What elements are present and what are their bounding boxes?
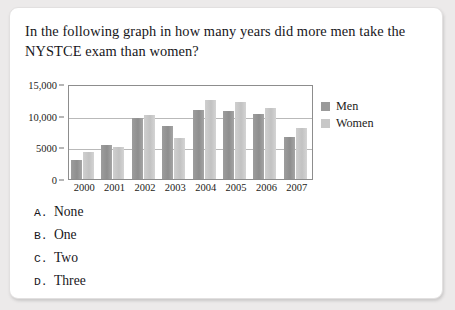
legend-label: Women bbox=[336, 116, 374, 131]
bar-women-2003 bbox=[174, 138, 185, 179]
option-label: Three bbox=[54, 273, 86, 289]
bar-men-2004 bbox=[193, 110, 204, 179]
option-three[interactable]: D.Three bbox=[34, 273, 334, 296]
option-two[interactable]: C.Two bbox=[34, 250, 334, 273]
y-axis-tick-mark bbox=[59, 148, 64, 149]
bar-group bbox=[160, 86, 190, 179]
bar-group bbox=[191, 86, 221, 179]
bar-group bbox=[69, 86, 99, 179]
bar-men-2007 bbox=[284, 137, 295, 179]
y-axis-tick-label: 15,000 bbox=[28, 80, 57, 91]
bar-group bbox=[282, 86, 312, 179]
x-axis: 20002001200220032004200520062007 bbox=[69, 182, 312, 196]
option-key: D. bbox=[34, 276, 54, 288]
option-key: A. bbox=[34, 207, 54, 219]
bar-women-2002 bbox=[144, 115, 155, 179]
bar-men-2001 bbox=[101, 145, 112, 179]
answer-options: A.NoneB.OneC.TwoD.Three bbox=[34, 204, 334, 296]
x-axis-tick-label: 2007 bbox=[282, 182, 312, 193]
bar-women-2000 bbox=[83, 152, 94, 179]
bar-men-2002 bbox=[132, 118, 143, 179]
y-axis: 0500010,00015,000 bbox=[10, 85, 64, 180]
y-axis-tick-mark bbox=[59, 85, 64, 86]
bar-men-2006 bbox=[253, 114, 264, 179]
option-label: One bbox=[54, 227, 77, 243]
option-key: B. bbox=[34, 230, 54, 242]
option-none[interactable]: A.None bbox=[34, 204, 334, 227]
legend-swatch-icon bbox=[321, 119, 330, 128]
bar-women-2007 bbox=[296, 128, 307, 179]
y-axis-tick-mark bbox=[59, 116, 64, 117]
x-axis-tick-label: 2003 bbox=[160, 182, 190, 193]
bar-group bbox=[251, 86, 281, 179]
y-axis-tick-label: 0 bbox=[52, 175, 57, 186]
bar-women-2005 bbox=[235, 102, 246, 180]
x-axis-tick-label: 2005 bbox=[221, 182, 251, 193]
x-axis-tick-label: 2006 bbox=[251, 182, 281, 193]
x-axis-tick-label: 2002 bbox=[130, 182, 160, 193]
x-axis-tick-label: 2000 bbox=[69, 182, 99, 193]
option-label: Two bbox=[54, 250, 78, 266]
bar-chart: 0500010,00015,000 2000200120022003200420… bbox=[10, 70, 443, 195]
option-one[interactable]: B.One bbox=[34, 227, 334, 250]
option-key: C. bbox=[34, 253, 54, 265]
y-axis-tick-label: 10,000 bbox=[28, 111, 57, 122]
bar-group bbox=[99, 86, 129, 179]
x-axis-tick-label: 2004 bbox=[191, 182, 221, 193]
bar-men-2003 bbox=[162, 126, 173, 179]
option-label: None bbox=[54, 204, 83, 220]
bar-women-2004 bbox=[205, 100, 216, 179]
bar-men-2005 bbox=[223, 111, 234, 179]
question-card: In the following graph in how many years… bbox=[9, 7, 443, 299]
bar-women-2001 bbox=[113, 147, 124, 179]
x-axis-tick-label: 2001 bbox=[99, 182, 129, 193]
legend-item-men: Men bbox=[321, 98, 421, 115]
y-axis-tick-mark bbox=[59, 180, 64, 181]
bar-men-2000 bbox=[71, 160, 82, 179]
bar-group bbox=[221, 86, 251, 179]
bars-layer bbox=[69, 86, 312, 179]
chart-legend: MenWomen bbox=[321, 98, 421, 132]
legend-item-women: Women bbox=[321, 115, 421, 132]
y-axis-tick-label: 5000 bbox=[36, 143, 57, 154]
legend-label: Men bbox=[336, 99, 358, 114]
bar-group bbox=[130, 86, 160, 179]
bar-women-2006 bbox=[265, 108, 276, 179]
question-text: In the following graph in how many years… bbox=[25, 21, 420, 61]
legend-swatch-icon bbox=[321, 102, 330, 111]
